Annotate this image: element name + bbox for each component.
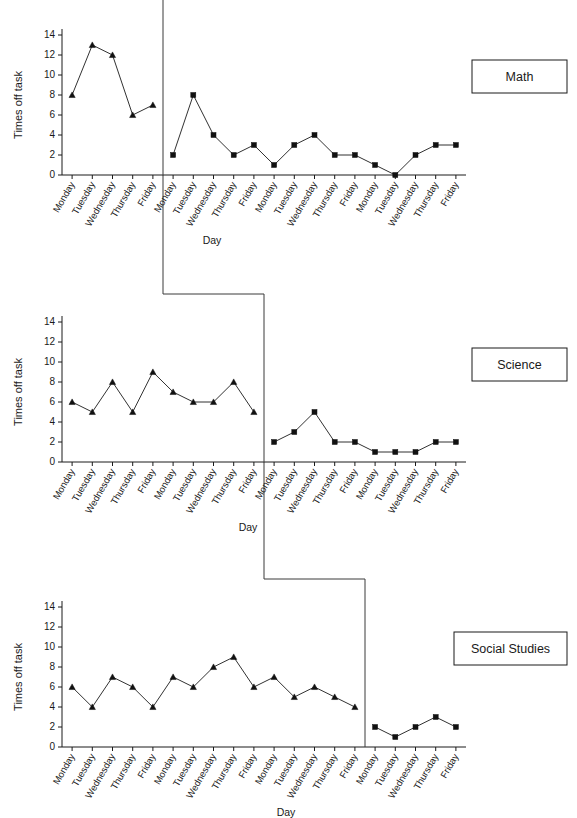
y-axis-tick-label: 12 [44,336,56,347]
data-point-marker[interactable] [312,410,317,415]
y-axis-tick-label: 2 [49,721,55,732]
data-point-marker[interactable] [231,153,236,158]
data-point-marker[interactable] [433,440,438,445]
x-axis-tick-label: Friday [438,466,461,495]
y-axis-title: Times off task [12,71,24,139]
data-point-marker[interactable] [109,52,115,58]
data-point-marker[interactable] [352,704,358,710]
x-axis-title: Day [239,521,258,533]
data-point-marker[interactable] [89,42,95,48]
data-point-marker[interactable] [171,153,176,158]
data-point-marker[interactable] [332,694,338,700]
data-point-marker[interactable] [413,153,418,158]
data-point-marker[interactable] [150,369,156,375]
data-point-marker[interactable] [433,715,438,720]
data-point-marker[interactable] [69,399,75,405]
data-point-marker[interactable] [251,684,257,690]
chart-panel-science: 02468101214MondayTuesdayWednesdayThursda… [12,294,567,533]
x-axis-title: Day [203,234,222,246]
data-point-marker[interactable] [210,664,216,670]
panel-label-math: Math [506,70,534,84]
y-axis-tick-label: 10 [44,356,56,367]
figure-stage: 02468101214MondayTuesdayWednesdayThursda… [0,0,577,818]
y-axis-tick-label: 0 [49,169,55,180]
y-axis-tick-label: 0 [49,456,55,467]
data-point-marker[interactable] [69,92,75,98]
y-axis-tick-label: 10 [44,641,56,652]
data-point-marker[interactable] [393,173,398,178]
series-line-baseline [72,372,254,412]
y-axis-title: Times off task [12,643,24,711]
y-axis-tick-label: 14 [44,601,56,612]
data-point-marker[interactable] [130,409,136,415]
data-point-marker[interactable] [231,654,237,660]
data-point-marker[interactable] [352,153,357,158]
multi-panel-line-chart: 02468101214MondayTuesdayWednesdayThursda… [0,0,577,818]
data-point-marker[interactable] [231,379,237,385]
y-axis-tick-label: 8 [49,89,55,100]
data-point-marker[interactable] [292,430,297,435]
y-axis-tick-label: 10 [44,69,56,80]
data-point-marker[interactable] [352,440,357,445]
y-axis-tick-label: 8 [49,661,55,672]
data-point-marker[interactable] [109,379,115,385]
data-point-marker[interactable] [191,93,196,98]
data-point-marker[interactable] [211,133,216,138]
x-axis-tick-label: Friday [438,751,461,780]
data-point-marker[interactable] [271,674,277,680]
data-point-marker[interactable] [393,450,398,455]
data-point-marker[interactable] [373,450,378,455]
data-point-marker[interactable] [373,725,378,730]
data-point-marker[interactable] [433,143,438,148]
y-axis-tick-label: 4 [49,701,55,712]
y-axis-tick-label: 6 [49,109,55,120]
y-axis-tick-label: 2 [49,149,55,160]
y-axis-tick-label: 2 [49,436,55,447]
series-line-treatment [274,412,456,452]
data-point-marker[interactable] [332,440,337,445]
data-point-marker[interactable] [453,143,458,148]
data-point-marker[interactable] [292,143,297,148]
y-axis-title: Times off task [12,358,24,426]
data-point-marker[interactable] [272,163,277,168]
y-axis-tick-label: 6 [49,681,55,692]
data-point-marker[interactable] [130,112,136,118]
data-point-marker[interactable] [393,735,398,740]
y-axis-tick-label: 12 [44,49,56,60]
data-point-marker[interactable] [170,674,176,680]
data-point-marker[interactable] [89,409,95,415]
data-point-marker[interactable] [109,674,115,680]
data-point-marker[interactable] [150,102,156,108]
y-axis-tick-label: 4 [49,129,55,140]
data-point-marker[interactable] [312,133,317,138]
data-point-marker[interactable] [332,153,337,158]
x-axis-title: Day [277,806,296,818]
chart-panel-math: 02468101214MondayTuesdayWednesdayThursda… [12,0,567,246]
panel-label-science: Science [497,358,542,372]
data-point-marker[interactable] [413,725,418,730]
data-point-marker[interactable] [413,450,418,455]
data-point-marker[interactable] [453,440,458,445]
y-axis-tick-label: 14 [44,29,56,40]
data-point-marker[interactable] [453,725,458,730]
y-axis-tick-label: 0 [49,741,55,752]
data-point-marker[interactable] [130,684,136,690]
y-axis-tick-label: 8 [49,376,55,387]
chart-panel-social-studies: 02468101214MondayTuesdayWednesdayThursda… [12,579,567,818]
y-axis-tick-label: 14 [44,316,56,327]
panel-label-social-studies: Social Studies [471,642,550,656]
data-point-marker[interactable] [251,409,257,415]
data-point-marker[interactable] [373,163,378,168]
y-axis-tick-label: 4 [49,416,55,427]
data-point-marker[interactable] [311,684,317,690]
x-axis-tick-label: Friday [438,179,461,208]
data-point-marker[interactable] [69,684,75,690]
data-point-marker[interactable] [251,143,256,148]
data-point-marker[interactable] [272,440,277,445]
y-axis-tick-label: 12 [44,621,56,632]
y-axis-tick-label: 6 [49,396,55,407]
